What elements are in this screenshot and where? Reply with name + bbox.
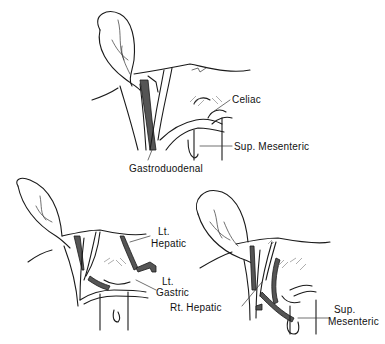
label-celiac: Celiac — [232, 94, 261, 105]
label-rt-hepatic: Rt. Hepatic — [170, 302, 222, 313]
label-lt-gastric-line1: Lt. — [162, 276, 174, 287]
label-sup-mesenteric-top: Sup. Mesenteric — [234, 141, 309, 152]
hepatic-artery-variations-figure: Celiac Sup. Mesenteric Gastroduodenal Lt… — [0, 0, 385, 344]
rt-hepatic-artery-br — [256, 258, 294, 322]
label-lt-hepatic-line1: Lt. — [158, 226, 170, 237]
label-lt-gastric-line2: Gastric — [156, 287, 189, 298]
label-sup-mesenteric-line1: Sup. — [334, 304, 355, 315]
gallbladder-bottom-right — [196, 191, 254, 264]
aorta-bottom-right — [278, 258, 316, 334]
liver-margin-bottom-right — [200, 238, 330, 268]
label-sup-mesenteric-line2: Mesenteric — [328, 316, 379, 327]
label-lt-hepatic-line2: Hepatic — [151, 238, 186, 249]
label-gastroduodenal: Gastroduodenal — [129, 163, 203, 174]
